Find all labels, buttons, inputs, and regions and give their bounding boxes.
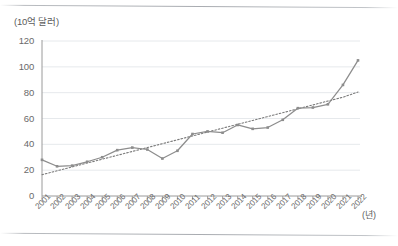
y-tick-label: 40 xyxy=(8,138,34,149)
gridlines xyxy=(42,41,360,170)
y-tick-label: 120 xyxy=(8,35,34,46)
y-tick-label: 100 xyxy=(8,61,34,72)
y-tick-label: 80 xyxy=(8,87,34,98)
axis-lines xyxy=(42,40,362,196)
data-series-line xyxy=(42,60,358,166)
y-tick-label: 20 xyxy=(8,164,34,175)
y-tick-label: 60 xyxy=(8,113,34,124)
chart-figure: (10억 달러) (년) 020406080100120 20012002200… xyxy=(0,0,398,246)
data-point-markers xyxy=(41,59,360,168)
y-tick-label: 0 xyxy=(8,190,34,201)
trendline xyxy=(42,92,358,175)
